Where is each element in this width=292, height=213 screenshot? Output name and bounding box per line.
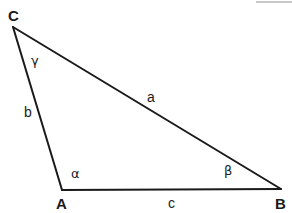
vertex-label-a: A xyxy=(56,196,67,211)
triangle-diagram-canvas: C A B a b c γ α β xyxy=(0,0,292,213)
side-label-a: a xyxy=(147,90,155,104)
side-label-b: b xyxy=(24,105,32,119)
side-c-line xyxy=(62,189,281,190)
vertex-label-c: C xyxy=(8,8,19,23)
angle-label-alpha: α xyxy=(71,167,80,180)
triangle-figure xyxy=(0,0,292,213)
angle-label-gamma: γ xyxy=(31,54,39,67)
side-a-line xyxy=(13,27,281,189)
vertex-label-b: B xyxy=(275,196,286,211)
side-label-c: c xyxy=(168,196,175,210)
angle-label-beta: β xyxy=(224,164,232,177)
